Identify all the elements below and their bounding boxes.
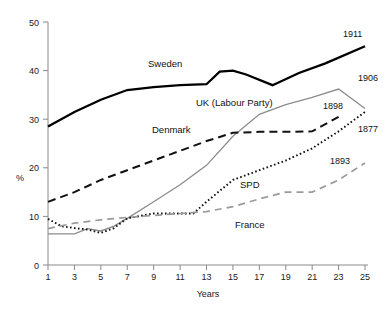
x-tick-label-7: 7: [125, 272, 130, 282]
series-lines: [48, 46, 365, 234]
x-tick-label-23: 23: [334, 272, 344, 282]
y-tick-label-30: 30: [29, 115, 39, 125]
y-tick-label-50: 50: [29, 18, 39, 28]
y-tick-label-20: 20: [29, 163, 39, 173]
x-tick-label-25: 25: [360, 272, 370, 282]
series-inline-labels: SwedenUK (Labour Party)DenmarkSPDFrance: [148, 58, 273, 230]
end-year-label-1893: 1893: [330, 156, 350, 166]
end-year-label-1877: 1877: [358, 124, 378, 134]
x-tick-label-9: 9: [151, 272, 156, 282]
y-tick-label-40: 40: [29, 66, 39, 76]
x-tick-label-1: 1: [45, 272, 50, 282]
x-tick-label-13: 13: [201, 272, 211, 282]
x-axis-ticks: 135791113151719212325: [45, 265, 370, 282]
series-label-uk-labour-party: UK (Labour Party): [196, 97, 273, 108]
y-axis-ticks: 50 40 30 20 10 0: [29, 18, 48, 271]
end-year-label-1911: 1911: [343, 29, 362, 39]
x-tick-label-11: 11: [175, 272, 184, 282]
series-label-spd: SPD: [240, 179, 260, 190]
chart-container: 50 40 30 20 10 0 135791113151719212325 %…: [0, 0, 387, 316]
series-line-sweden: [48, 46, 365, 126]
y-axis-title: %: [16, 173, 24, 183]
end-year-label-1906: 1906: [358, 73, 378, 83]
x-tick-label-5: 5: [98, 272, 103, 282]
series-line-denmark: [48, 117, 339, 202]
series-line-france: [48, 163, 365, 229]
y-tick-label-0: 0: [34, 261, 39, 271]
series-label-sweden: Sweden: [148, 58, 182, 69]
x-tick-label-3: 3: [72, 272, 77, 282]
x-tick-label-19: 19: [281, 272, 291, 282]
x-tick-label-21: 21: [307, 272, 317, 282]
line-chart-plot: 50 40 30 20 10 0 135791113151719212325 %…: [0, 0, 387, 316]
x-tick-label-17: 17: [254, 272, 264, 282]
series-label-france: France: [235, 219, 265, 230]
x-tick-label-15: 15: [228, 272, 238, 282]
series-line-spd: [48, 112, 365, 233]
end-year-label-1898: 1898: [323, 101, 343, 111]
series-label-denmark: Denmark: [152, 124, 191, 135]
y-tick-label-10: 10: [29, 212, 39, 222]
x-axis-title: Years: [197, 289, 220, 299]
